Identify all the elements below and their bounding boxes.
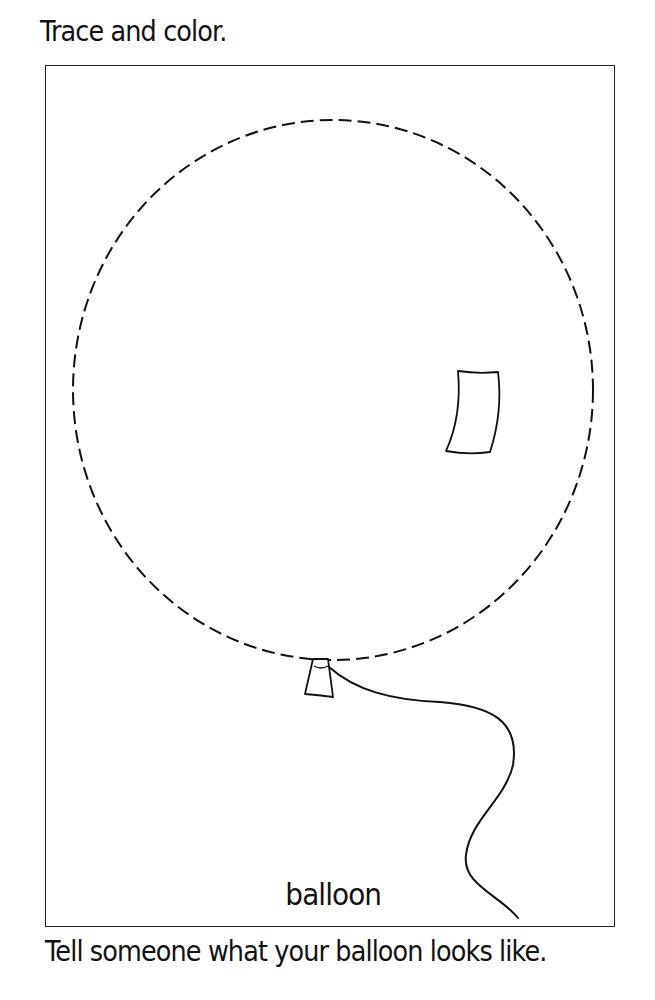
discussion-prompt: Tell someone what your balloon looks lik… [45,934,547,968]
picture-label: balloon [0,876,655,912]
balloon-knot-icon [305,659,333,697]
picture-label-text: balloon [286,876,382,912]
balloon-outline-dashed-icon[interactable] [73,120,593,660]
balloon-drawing[interactable] [0,0,655,1000]
balloon-highlight-icon [446,371,499,453]
